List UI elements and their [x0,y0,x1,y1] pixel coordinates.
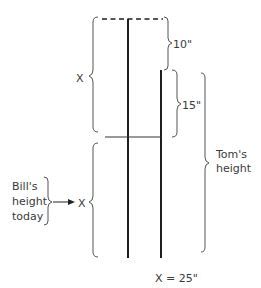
bottom-x-label: X [78,197,86,210]
ten-inch-brace-icon [164,17,172,70]
toms-height-label-line1: Tom's [215,148,247,161]
arrow-right-icon [68,199,75,205]
bills-label-line1: Bill's [12,180,38,193]
bills-label-line2: height [12,195,48,208]
top-x-brace-icon [89,17,98,132]
fifteen-inch-label: 15" [182,99,201,112]
ten-inch-label: 10" [173,38,192,51]
fifteen-inch-brace-icon [172,70,181,137]
top-x-label: X [76,72,84,85]
height-comparison-diagram: X X 10" 15" Tom's height Bill's height t… [0,0,261,288]
bottom-x-brace-icon [89,143,98,257]
solution-label: X = 25" [155,272,198,285]
bills-label-line3: today [12,210,44,223]
toms-height-label-line2: height [216,162,252,175]
toms-height-brace-icon [201,73,209,252]
